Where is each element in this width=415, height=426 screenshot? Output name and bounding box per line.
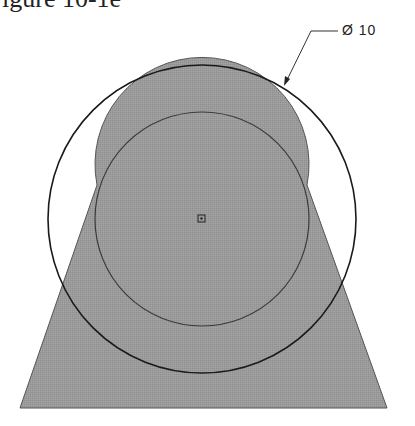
cad-drawing: [0, 0, 415, 426]
arrow-head-icon: [284, 76, 290, 86]
part-body: [20, 57, 387, 408]
dimension-leader[interactable]: [284, 31, 338, 86]
diameter-dimension-label[interactable]: Ø 10: [342, 22, 376, 38]
